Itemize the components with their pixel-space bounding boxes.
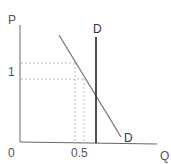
demand-chart: P 1 0 0.5 Q D D xyxy=(0,0,171,164)
sloped-demand-curve xyxy=(59,35,121,137)
q-axis-label: Q xyxy=(160,149,169,163)
vertical-curve-label: D xyxy=(93,22,102,36)
q-axis-line xyxy=(20,142,157,144)
sloped-curve-label: D xyxy=(124,131,133,145)
origin-label: 0 xyxy=(8,146,15,160)
y-tick-label: 1 xyxy=(8,65,15,79)
p-axis-label: P xyxy=(8,13,16,27)
x-tick-label: 0.5 xyxy=(71,146,88,160)
